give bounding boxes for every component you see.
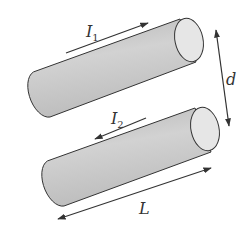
current-1-label: I1: [85, 22, 99, 43]
wire-2-cylinder: [42, 105, 223, 207]
parallel-wires-diagram: I1 I2 d L: [0, 0, 251, 229]
separation-label: d: [226, 70, 236, 89]
current-2-label: I2: [110, 109, 124, 130]
wire-1-cylinder: [28, 16, 208, 118]
length-label: L: [138, 199, 150, 218]
